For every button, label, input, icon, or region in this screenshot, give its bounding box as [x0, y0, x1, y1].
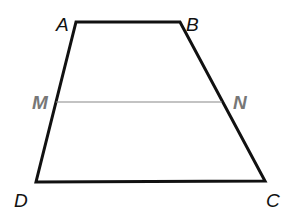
label-d: D	[14, 190, 28, 211]
label-m: M	[32, 92, 49, 113]
trapezoid-diagram: A B C D M N	[0, 0, 297, 219]
label-a: A	[55, 14, 69, 35]
label-c: C	[266, 190, 280, 211]
label-n: N	[233, 92, 248, 113]
label-b: B	[186, 14, 199, 35]
